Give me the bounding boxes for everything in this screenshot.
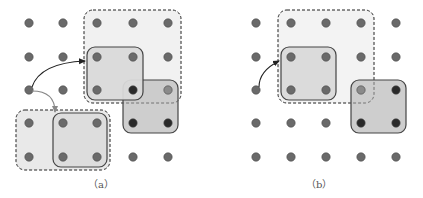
grid-dot <box>287 86 295 94</box>
caption-a: （a） <box>88 176 114 191</box>
grid-dot <box>93 119 101 127</box>
grid-dot <box>93 19 101 27</box>
grid-dot <box>357 19 365 27</box>
grid-dot <box>252 53 260 61</box>
grid-dot <box>93 53 101 61</box>
grid-dot <box>287 19 295 27</box>
grid-dot <box>164 53 172 61</box>
grid-dot <box>357 119 365 127</box>
caption-b: （b） <box>306 176 332 191</box>
grid-dot <box>164 86 172 94</box>
grid-dot <box>392 19 400 27</box>
grid-dot <box>25 119 33 127</box>
grid-dot <box>25 86 33 94</box>
grid-dot <box>357 53 365 61</box>
grid-dot <box>287 119 295 127</box>
offset-arrow-gray <box>32 91 55 112</box>
grid-dot <box>25 19 33 27</box>
grid-dot <box>322 53 330 61</box>
grid-dot <box>164 19 172 27</box>
grid-dot <box>59 53 67 61</box>
grid-dot <box>392 53 400 61</box>
grid-dot <box>129 86 137 94</box>
grid-dot <box>252 153 260 161</box>
grid-dot <box>164 119 172 127</box>
offset-arrow-black <box>32 61 85 87</box>
grid-dot <box>129 153 137 161</box>
grid-dot <box>287 153 295 161</box>
grid-dot <box>357 153 365 161</box>
panel-a <box>16 10 181 170</box>
diagram-canvas <box>0 0 423 198</box>
grid-dot <box>25 153 33 161</box>
grid-dot <box>322 153 330 161</box>
grid-dot <box>252 86 260 94</box>
grid-dot <box>252 19 260 27</box>
grid-dot <box>322 119 330 127</box>
grid-dot <box>59 153 67 161</box>
grid-dot <box>392 153 400 161</box>
grid-dot <box>59 19 67 27</box>
grid-dot <box>129 19 137 27</box>
grid-dot <box>322 19 330 27</box>
grid-dot <box>252 119 260 127</box>
grid-dot <box>25 53 33 61</box>
grid-dot <box>129 53 137 61</box>
grid-dot <box>93 86 101 94</box>
grid-dot <box>392 119 400 127</box>
offset-arrow-black <box>259 61 279 87</box>
grid-dot <box>357 86 365 94</box>
grid-dot <box>59 119 67 127</box>
grid-dot <box>59 86 67 94</box>
grid-dot <box>93 153 101 161</box>
grid-dot <box>322 86 330 94</box>
grid-dot <box>129 119 137 127</box>
grid-dot <box>392 86 400 94</box>
grid-dot <box>287 53 295 61</box>
grid-dot <box>164 153 172 161</box>
panel-b <box>252 10 406 161</box>
